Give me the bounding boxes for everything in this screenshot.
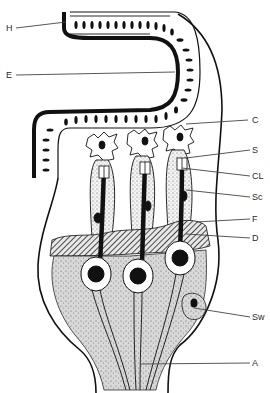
label-dendrite: D xyxy=(252,233,259,243)
sensillum-diagram: H E C S CL Sc F D Sw A xyxy=(0,0,270,393)
label-epidermis: E xyxy=(6,70,12,80)
label-fibrous-tissue: F xyxy=(252,214,258,224)
label-schwann-cell: Sw xyxy=(252,312,265,322)
label-cilium: CL xyxy=(252,171,264,181)
label-scolopale: S xyxy=(252,145,258,155)
label-axon: A xyxy=(252,358,258,368)
label-hair-socket: H xyxy=(6,23,13,33)
label-cap-cell: C xyxy=(252,115,259,125)
label-scolopale-cell: Sc xyxy=(252,192,263,202)
diagram-drawing xyxy=(0,0,270,393)
